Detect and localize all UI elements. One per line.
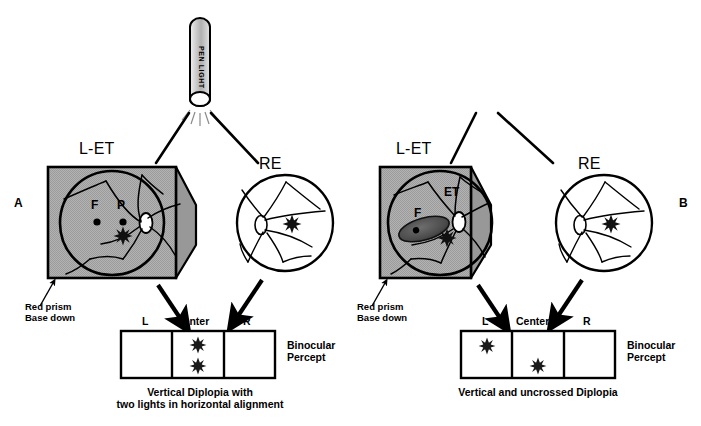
panel-a-caption-line2: two lights in horizontal alignment [80,399,320,411]
panel-a-percept-label-line1: Binocular [287,340,335,352]
panel-b-fovea-label: F [414,207,421,220]
panel-b-column-header-center: Center [516,316,549,328]
panel-a-fovea-label: F [91,199,98,212]
panel-a-right-eye-title: RE [259,155,282,173]
panel-b-prism-note-line2: Base down [357,313,407,324]
panel-a-percept-table [121,331,275,378]
panel-a-light-paths [156,113,258,163]
panel-a-column-header-r: R [243,316,251,328]
panel-a-right-image-star [283,215,302,234]
light-rays-icon [182,110,218,126]
panel-b-caption-line1: Vertical and uncrossed Diplopia [418,387,658,399]
panel-b-percept-label-line2: Percept [627,352,666,364]
panel-b-percept-star-left [479,338,496,355]
pen-light-label: PEN LIGHT [198,46,205,89]
panel-b-left-eye-title: L-ET [396,140,431,158]
panel-b-right-fundus [556,175,652,271]
panel-a-column-header-center: Center [176,316,209,328]
panel-a-percept-arrows [158,280,262,318]
panel-b-right-image-star [602,215,621,234]
panel-a-fovea-dot [93,218,100,225]
panel-a-right-fundus [237,175,333,271]
panel-a-caption-line1: Vertical Diplopia with [80,387,320,399]
panel-b-left-image-star [438,229,457,248]
diagram-svg [0,0,701,426]
figure-canvas: PEN LIGHT A B L-ET RE F P Red prism Base… [0,0,701,426]
panel-b-percept-arrows [478,280,582,318]
panel-b-percept-table [461,331,615,378]
panel-a-percept-star-upper [190,337,207,354]
panel-b-percept-star-center [530,358,547,375]
panel-a-percept-star-lower [190,358,207,375]
panel-a-left-eye-title: L-ET [79,140,114,158]
panel-a-column-header-l: L [142,316,148,328]
panel-b-column-header-r: R [583,316,591,328]
panel-a-left-image-star [114,227,133,246]
panel-a-percept-label-line2: Percept [287,352,326,364]
panel-b-column-header-l: L [482,316,488,328]
panel-a-pseudofovea-label: P [117,199,125,212]
panel-a-prism-note-line2: Base down [25,313,75,324]
panel-b-letter: B [679,197,688,210]
panel-b-light-paths [451,113,553,163]
panel-a-letter: A [14,197,23,210]
panel-b-et-label: ET [444,186,459,199]
panel-a-pseudofovea-dot [119,218,126,225]
panel-b-percept-label-line1: Binocular [627,340,675,352]
panel-b-right-eye-title: RE [578,155,601,173]
